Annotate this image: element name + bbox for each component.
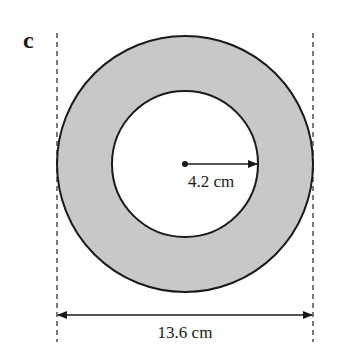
inner-radius-label: 4.2 cm	[188, 172, 234, 191]
annulus-diagram: c 4.2 cm 13.6 cm	[0, 0, 341, 361]
outer-diameter-label: 13.6 cm	[158, 323, 213, 342]
part-label: c	[23, 27, 34, 53]
